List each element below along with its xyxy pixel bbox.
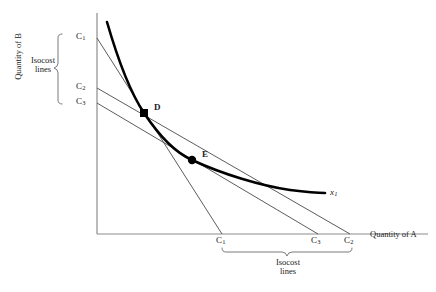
isoquant-curve-label: x1: [330, 188, 338, 198]
y-c1-sub: 1: [82, 34, 86, 41]
point-marker-d: [140, 109, 148, 117]
y-axis-label: Quantity of B: [14, 14, 23, 98]
isocost-line-c1: [97, 38, 222, 234]
isoquant-isocost-figure: Quantity of B Quantity of A Isocost line…: [0, 0, 436, 292]
brace-bottom-isocost: [222, 248, 352, 256]
x-intercept-label-c3: C3: [311, 236, 321, 246]
point-label-e: E: [202, 150, 208, 159]
isocost-lines-label-left: Isocost lines: [24, 56, 62, 74]
isocost-lines-group: [97, 38, 350, 234]
figure-canvas: [0, 0, 436, 292]
x-c1-sub: 1: [222, 238, 226, 245]
isocost-line-c3: [97, 103, 318, 234]
x-c3-sub: 3: [317, 238, 321, 245]
y-intercept-label-c1: C1: [76, 32, 86, 42]
isocost-line-c2: [97, 88, 350, 234]
x-intercept-label-c1: C1: [216, 236, 226, 246]
isocost-left-line2: lines: [35, 64, 51, 74]
isocost-lines-label-bottom: Isocost lines: [250, 258, 326, 276]
isoquant-curve-x1: [107, 22, 325, 193]
curve-label-sub: 1: [334, 190, 338, 197]
point-marker-e: [188, 156, 196, 164]
y-c3-sub: 3: [82, 99, 86, 106]
point-label-d: D: [154, 103, 161, 112]
isoquant-curve-group: [107, 22, 325, 193]
x-intercept-label-c2: C2: [344, 236, 354, 246]
y-c2-sub: 2: [82, 84, 86, 91]
x-c2-sub: 2: [350, 238, 354, 245]
y-intercept-label-c3: C3: [76, 97, 86, 107]
x-axis-label: Quantity of A: [370, 230, 417, 239]
y-intercept-label-c2: C2: [76, 82, 86, 92]
isocost-bottom-line2: lines: [280, 266, 296, 276]
